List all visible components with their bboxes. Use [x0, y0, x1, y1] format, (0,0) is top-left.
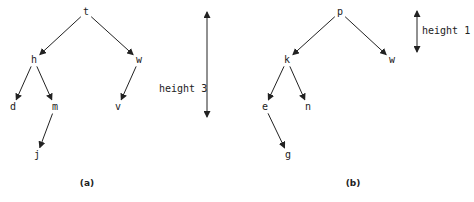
height-label-a: height 3 [159, 84, 207, 94]
tree-node-m: m [52, 102, 58, 112]
edge-t-h [40, 17, 81, 55]
tree-node-t: t [83, 7, 89, 17]
edge-h-m [37, 66, 52, 99]
tree-node-v: v [115, 102, 121, 112]
tree-node-n: n [305, 102, 311, 112]
edge-k-n [290, 66, 305, 99]
tree-node-j: j [34, 150, 40, 160]
tree-node-k: k [284, 55, 290, 65]
edge-t-w [91, 17, 133, 55]
tree-node-p: p [337, 7, 343, 17]
height-label-b: height 1 [422, 26, 470, 36]
tree-node-d: d [10, 102, 16, 112]
tree-node-w: w [389, 55, 395, 65]
edge-w-v [121, 66, 136, 99]
tree-node-g: g [285, 150, 291, 160]
edge-e-g [268, 113, 285, 147]
tree-node-w: w [136, 55, 142, 65]
caption-b: (b) [346, 178, 361, 188]
caption-a: (a) [80, 178, 94, 188]
tree-node-e: e [262, 102, 268, 112]
diagram-canvas [0, 0, 474, 202]
edge-k-e [268, 66, 284, 99]
edge-p-w [345, 17, 386, 55]
edge-p-k [293, 17, 335, 55]
edge-h-d [16, 66, 31, 99]
edge-m-j [40, 114, 53, 148]
tree-node-h: h [31, 55, 37, 65]
